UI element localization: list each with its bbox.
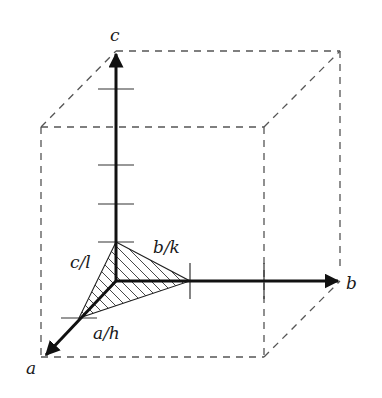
intercept-b-label: b/k [153, 237, 180, 257]
miller-plane-diagram: c b a c/l b/k a/h [0, 0, 382, 398]
axis-c-label: c [110, 25, 120, 45]
intercept-c-label: c/l [70, 252, 91, 272]
axes [46, 54, 338, 355]
intercept-a-label: a/h [93, 323, 120, 343]
cell-edge-diag-bottom-right [264, 281, 340, 357]
axis-a [46, 281, 116, 355]
cell-edge-diag-top-right [264, 51, 340, 127]
axis-a-label: a [26, 358, 36, 378]
axis-ticks [61, 89, 264, 318]
axis-b-label: b [346, 273, 357, 293]
